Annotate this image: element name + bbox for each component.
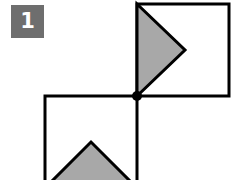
number-badge: 1 (11, 5, 44, 38)
number-badge-label: 1 (20, 11, 35, 32)
shared-corner-vertex-dot (132, 91, 142, 101)
figure-canvas: 1 (0, 0, 235, 180)
